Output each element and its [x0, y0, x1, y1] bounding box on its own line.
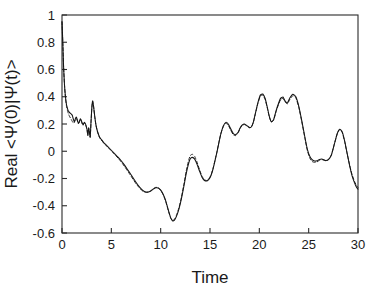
y-tick-label: 1	[48, 8, 55, 23]
y-axis-title: Real <Ψ(0)|Ψ(t)>	[2, 59, 21, 188]
x-tick-label: 20	[252, 237, 266, 252]
y-tick-label: 0.6	[37, 62, 55, 77]
y-tick-label: 0.8	[37, 35, 55, 50]
y-tick-label: 0	[48, 144, 55, 159]
y-tick-label: 0.4	[37, 89, 55, 104]
x-tick-label: 0	[58, 237, 65, 252]
figure-background	[0, 0, 377, 296]
y-tick-label: -0.6	[33, 226, 55, 241]
x-tick-label: 5	[108, 237, 115, 252]
x-tick-label: 10	[153, 237, 167, 252]
x-tick-label: 25	[301, 237, 315, 252]
y-tick-label: 0.2	[37, 117, 55, 132]
x-tick-label: 15	[203, 237, 217, 252]
x-axis-title: Time	[191, 268, 228, 287]
y-tick-label: -0.2	[33, 171, 55, 186]
y-tick-label: -0.4	[33, 198, 55, 213]
chart-figure: -0.6-0.4-0.200.20.40.60.81 051015202530 …	[0, 0, 377, 296]
x-tick-label: 30	[351, 237, 365, 252]
y-axis-tick-labels: -0.6-0.4-0.200.20.40.60.81	[33, 8, 55, 241]
